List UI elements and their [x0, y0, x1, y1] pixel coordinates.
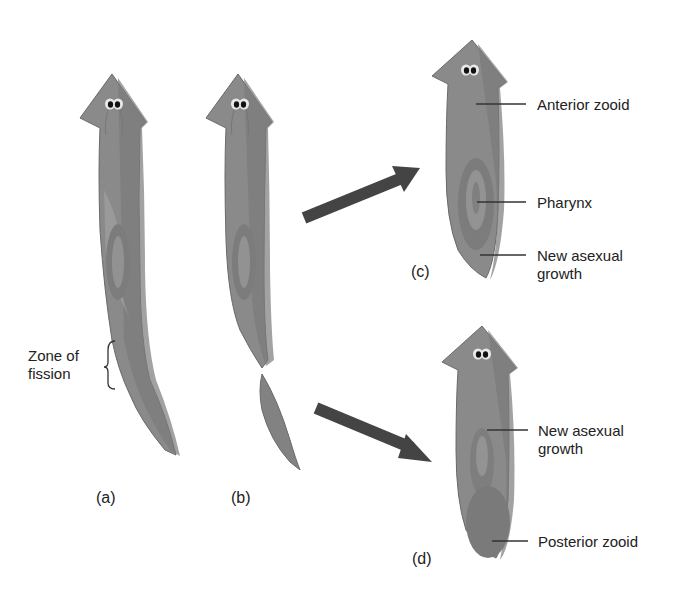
- new-growth-d-label: New asexual growth: [538, 422, 624, 458]
- panel-label-b: (b): [231, 489, 251, 507]
- anterior-zooid-label: Anterior zooid: [537, 96, 630, 114]
- zone-of-fission-line1: Zone of: [28, 347, 79, 365]
- arrow-to-c: [304, 166, 420, 218]
- planarian-b: [206, 74, 300, 470]
- new-growth-c-line1: New asexual: [537, 247, 623, 265]
- planarian-c: [432, 40, 508, 280]
- panel-label-a: (a): [96, 489, 116, 507]
- arrow-to-d: [316, 408, 432, 462]
- new-growth-c-line2: growth: [537, 265, 623, 283]
- panel-label-d: (d): [412, 550, 432, 568]
- planarian-d: [442, 326, 518, 560]
- zone-of-fission-label: Zone of fission: [28, 347, 79, 383]
- posterior-zooid-label: Posterior zooid: [538, 533, 638, 551]
- panel-label-c: (c): [411, 263, 430, 281]
- pharynx-label: Pharynx: [537, 194, 592, 212]
- new-growth-d-line2: growth: [538, 440, 624, 458]
- new-growth-d-line1: New asexual: [538, 422, 624, 440]
- planarian-a: [80, 74, 180, 456]
- new-growth-c-label: New asexual growth: [537, 247, 623, 283]
- zone-of-fission-line2: fission: [28, 365, 79, 383]
